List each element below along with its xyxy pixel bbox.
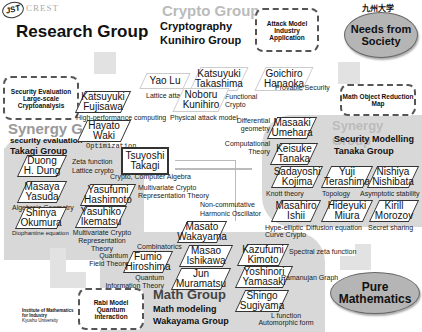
member-name: YasufumiHashimoto: [84, 185, 132, 205]
member-box-jun[interactable]: JunMuramatsu: [176, 268, 226, 290]
jst-logo: JST: [0, 0, 25, 21]
topic-label: Computational Theory: [218, 140, 270, 156]
member-name: Yao Lu: [150, 76, 181, 86]
member-box-katsuyuki-fujisawa[interactable]: KatsuyukiFujisawa: [80, 91, 126, 113]
synergy-right-sub1: Security Modelling: [334, 134, 414, 144]
synergy-right-sub2: Tanaka Group: [334, 146, 394, 156]
crypto-group-ghost: Crypto Group: [162, 2, 260, 19]
topic-label: Quantum Field Theory: [88, 252, 128, 268]
member-name: ShingoSugiyama: [240, 291, 284, 311]
topic-label: L function Automorphic form: [255, 312, 317, 326]
member-name: YujiTerashima: [324, 167, 370, 187]
member-name: KirillMorozov: [375, 201, 413, 221]
member-box-masaaki[interactable]: MasaakiUmehara: [272, 117, 312, 139]
topic-label: Non-commutative Harmonic Oscillator: [200, 200, 262, 218]
member-box-kazufumi[interactable]: KazufumiKimoto: [242, 244, 284, 266]
member-name: YasuhikoIkematsu: [81, 207, 122, 227]
crypto-group-sub2: Kunihiro Group: [160, 34, 241, 46]
member-box-masahiro[interactable]: MasahiroIshii: [276, 200, 316, 222]
member-box-fumio[interactable]: FumioHiroshima: [128, 251, 168, 273]
topic-label: Ramanujan Graph: [281, 274, 338, 281]
topic-label: Combinatorics: [137, 243, 182, 250]
member-name: NoboruKunihiro: [183, 90, 220, 110]
attack-model-box: Attack Model Industry Application: [255, 8, 319, 52]
rabi-model-box: Rabi Model Quantum interaction: [78, 288, 144, 330]
member-name: JunMuramatsu: [176, 269, 226, 289]
member-name: NishiyaNishibata: [372, 167, 414, 187]
member-box-masato[interactable]: MasatoWakayama: [182, 221, 222, 243]
topic-label: Zeta function Lattice crypto: [72, 157, 117, 175]
member-box-kirill[interactable]: KirillMorozov: [374, 200, 414, 222]
page-title: Research Group: [16, 22, 148, 42]
member-name: HayatoWaki: [88, 121, 120, 141]
topic-label: Knott theory: [266, 190, 304, 197]
math-group-sub2: Wakayama Group: [153, 316, 229, 326]
member-box-hideyuki[interactable]: HideyukiMiura: [326, 200, 368, 222]
needs-from-society: Needs from Society: [344, 12, 418, 58]
member-box-masaya[interactable]: MasayaYasuda: [22, 181, 62, 203]
member-name: KatsuyukiFujisawa: [81, 92, 124, 112]
pure-mathematics: Pure Mathematics: [330, 272, 420, 314]
topic-label: Quantum Information Theory: [104, 274, 164, 290]
member-name: MasatoWakayama: [177, 222, 227, 242]
member-name: MasaakiUmehara: [271, 118, 312, 138]
member-box-yasuhiko[interactable]: YasuhikoIkematsu: [80, 206, 122, 228]
topic-label: Multivariate Crypto Representation Theor…: [68, 229, 136, 253]
topic-label: Diffusion equation: [306, 224, 362, 231]
member-box-hayato[interactable]: HayatoWaki: [82, 120, 126, 142]
topic-label: Spectral zeta function: [289, 248, 356, 255]
member-box-keisuke[interactable]: KeisukeTanaka: [275, 143, 313, 165]
member-box-sadayoshi[interactable]: SadayoshiKojima: [276, 166, 318, 188]
topic-label: Asymptotic stability: [360, 190, 420, 197]
member-box-yasufumi[interactable]: YasufumiHashimoto: [85, 184, 131, 206]
member-box-shingo[interactable]: ShingoSugiyama: [240, 290, 284, 312]
topic-label: Crypto, Computer Algebra: [110, 173, 191, 180]
member-box-shinya[interactable]: ShinyaOkumura: [20, 207, 62, 229]
member-name: ShinyaOkumura: [20, 208, 61, 228]
member-name: HideyukiMiura: [328, 201, 366, 221]
arrow-down-icon: [94, 52, 116, 74]
connector-line: [175, 168, 252, 170]
topic-label: Secret sharing: [368, 224, 413, 231]
topic-label: Provable Security: [275, 84, 330, 91]
arrow-corner-icon: [50, 272, 86, 288]
member-box-noboru[interactable]: NoboruKunihiro: [178, 88, 224, 112]
crypto-group-sub1: Cryptography: [160, 20, 232, 32]
institute-line3: Kyushu University: [22, 318, 74, 323]
institute-label: Institute of Mathematics for Industry Ky…: [22, 308, 74, 323]
member-name: SadayoshiKojima: [274, 167, 321, 187]
member-name: KeisukeTanaka: [276, 144, 312, 164]
member-box-duong[interactable]: DuongH. Dung: [22, 155, 62, 177]
member-box-yao[interactable]: Yao Lu: [143, 73, 187, 89]
member-name: MasaoIshikawa: [187, 246, 226, 266]
security-evaluation-box: Security Evaluation Large-scale Cryptoan…: [3, 76, 79, 120]
topic-label: Functional Crypto: [225, 93, 265, 109]
member-box-nishiya[interactable]: NishiyaNishibata: [372, 166, 414, 188]
member-name: YoshinoriYamasaki: [242, 267, 285, 287]
member-name: TsuyoshiTakagi: [126, 151, 165, 171]
topic-label: Hype-elliptic Curve Crypto: [265, 224, 309, 238]
synergy-left-sub1: security evaluation: [10, 136, 82, 145]
member-name: MasayaYasuda: [24, 182, 59, 202]
arrow-down-icon: [338, 62, 360, 84]
topic-label: Physical attack model: [170, 114, 238, 121]
member-box-masao[interactable]: MasaoIshikawa: [184, 245, 228, 267]
topic-label: Diophantine equation: [12, 230, 69, 237]
arrow-corner-icon: [340, 256, 370, 270]
crest-logo: CREST: [26, 3, 59, 13]
math-group-sub1: Math modeling: [153, 304, 217, 314]
member-name: KatsuyukiTakashima: [195, 69, 243, 89]
member-box-tsuyoshi[interactable]: TsuyoshiTakagi: [121, 147, 169, 175]
member-box-yuji[interactable]: YujiTerashima: [326, 166, 368, 188]
member-name: FumioHiroshima: [126, 252, 171, 272]
member-name: MasahiroIshii: [275, 201, 316, 221]
member-name: DuongH. Dung: [24, 156, 61, 176]
topic-label: Multivariate Crypto Representation Theor…: [138, 184, 223, 200]
topic-label: Differential geometry: [232, 117, 270, 133]
math-object-box: Math Object Reduction Map: [340, 84, 416, 116]
topic-label: Topology: [322, 190, 350, 197]
member-name: KazufumiKimoto: [242, 245, 284, 265]
